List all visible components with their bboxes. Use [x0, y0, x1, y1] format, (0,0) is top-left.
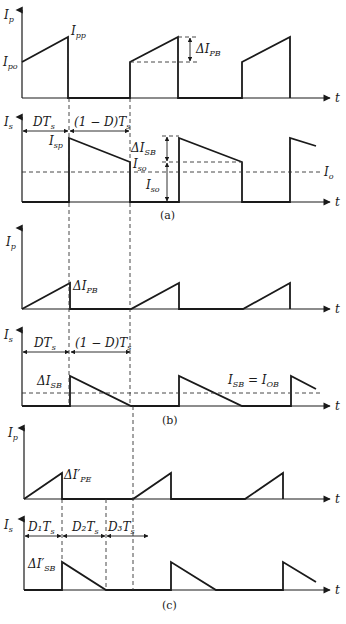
- interval-label-on: DTs: [32, 115, 55, 131]
- interval-label-d2: D₂Ts: [71, 520, 99, 536]
- panel-c-secondary-current-plot: Is t D₁Ts D₂Ts D₃Ts ΔI′SB: [3, 518, 340, 597]
- caption-a: (a): [160, 209, 175, 222]
- interval-label-on: DTs: [33, 336, 56, 352]
- panel-a: Ip t Ipp Ipo ΔIPB Is t DTs (1 − D)Ts: [2, 8, 340, 222]
- interval-label-off: (1 − D)Ts: [75, 336, 131, 352]
- boundary-equation-label: ISB = IOB: [227, 373, 279, 389]
- x-axis-label: t: [335, 195, 340, 209]
- caption-b: (b): [162, 414, 178, 427]
- x-axis-label: t: [335, 492, 340, 506]
- ripple-label: ΔIPB: [195, 42, 221, 58]
- output-current-label: Io: [323, 165, 334, 181]
- y-axis-label: Ip: [7, 426, 18, 442]
- interval-label-off: (1 − D)Ts: [74, 115, 130, 131]
- interval-label-d3: D₃Ts: [107, 520, 135, 536]
- ripple-label: ΔI′SB: [27, 557, 56, 573]
- y-axis-label: Ip: [5, 235, 16, 251]
- panel-b: Ip t ΔIPB Is t DTs (1 − D)Ts ΔISB ISB = …: [3, 228, 340, 427]
- peak-label: Ipp: [70, 24, 86, 40]
- x-axis-label: t: [335, 583, 340, 597]
- panel-a-primary-current-plot: Ip t Ipp Ipo ΔIPB: [2, 8, 340, 105]
- primary-current-waveform: [22, 283, 290, 309]
- panel-b-secondary-current-plot: Is t DTs (1 − D)Ts ΔISB ISB = IOB: [3, 328, 340, 413]
- peak-label: Isp: [48, 134, 63, 150]
- y-axis-label: Is: [3, 328, 13, 344]
- x-axis-label: t: [335, 302, 340, 316]
- primary-current-waveform: [24, 473, 283, 499]
- x-axis-label: t: [335, 91, 340, 105]
- ripple-label: ΔISB: [130, 141, 156, 157]
- primary-current-waveform: [22, 37, 290, 98]
- x-axis-label: t: [335, 399, 340, 413]
- panel-c: Ip t ΔI′PE Is t D₁Ts D₂Ts D₃Ts ΔI′SB (c): [3, 426, 340, 612]
- ripple-label: ΔIPB: [72, 279, 98, 295]
- secondary-current-waveform: [22, 138, 316, 202]
- secondary-current-waveform: [24, 562, 316, 590]
- y-axis-label: Is: [3, 518, 13, 534]
- panel-a-secondary-current-plot: Is t DTs (1 − D)Ts Isp Iso ΔISB Iso Io: [3, 115, 340, 209]
- panel-c-primary-current-plot: Ip t ΔI′PE: [7, 426, 340, 506]
- flyback-current-waveforms-figure: Ip t Ipp Ipo ΔIPB Is t DTs (1 − D)Ts: [0, 0, 346, 624]
- caption-c: (c): [162, 599, 177, 612]
- ripple-label: ΔISB: [36, 374, 62, 390]
- ripple-label: ΔI′PE: [63, 468, 92, 484]
- y-axis-label: Ip: [3, 8, 14, 24]
- panel-b-primary-current-plot: Ip t ΔIPB: [5, 228, 340, 316]
- valley-label: Iso: [132, 157, 147, 173]
- dc-label: Iso: [145, 178, 160, 194]
- y-axis-label: Is: [3, 115, 13, 131]
- start-label: Ipo: [2, 55, 18, 71]
- interval-label-d1: D₁Ts: [27, 520, 55, 536]
